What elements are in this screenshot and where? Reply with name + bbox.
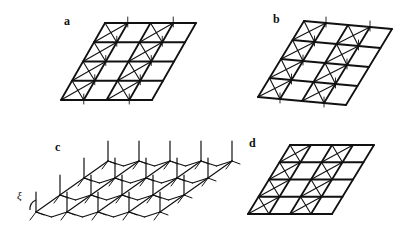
diagram-canvas bbox=[0, 0, 417, 232]
